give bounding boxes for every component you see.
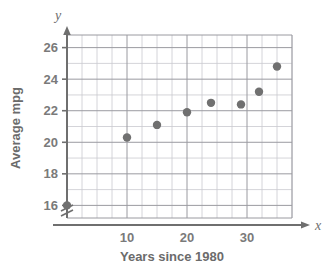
data-point [207,99,215,107]
data-point [123,133,131,141]
y-tick-label: 22 [44,103,58,118]
data-point [273,62,281,70]
y-tick-label: 16 [44,198,58,213]
data-point [255,88,263,96]
y-axis-letter: y [53,8,62,23]
data-point [237,100,245,108]
scatter-plot-figure: 161820222426 102030 y x Average mpg Year… [0,0,326,271]
data-point [63,201,71,209]
minor-gridlines-horizontal [67,63,292,189]
y-axis-tick-labels: 161820222426 [44,40,59,213]
x-axis-letter: x [314,218,322,233]
y-tick-label: 18 [44,166,58,181]
x-axis-tick-labels: 102030 [120,230,254,245]
y-axis-title: Average mpg [8,87,23,169]
y-tick-label: 20 [44,135,58,150]
data-point [183,108,191,116]
x-axis [53,221,310,228]
data-point [153,121,161,129]
y-tick-label: 24 [44,72,59,87]
x-tick-label: 20 [180,230,194,245]
x-tick-label: 10 [120,230,134,245]
chart-svg: 161820222426 102030 y x Average mpg Year… [0,0,326,271]
y-tick-label: 26 [44,40,58,55]
y-axis [63,26,71,218]
x-axis-title: Years since 1980 [120,249,224,264]
x-tick-label: 30 [240,230,254,245]
